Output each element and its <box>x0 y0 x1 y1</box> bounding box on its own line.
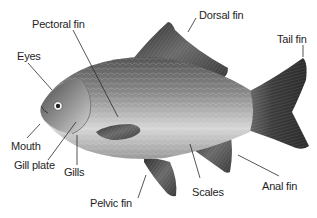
label-pelvic-fin: Pelvic fin <box>90 197 132 209</box>
pelvic-fin-shape <box>144 158 176 196</box>
eye-shape <box>54 102 62 110</box>
label-mouth: Mouth <box>11 140 41 152</box>
tail-fin-shape <box>248 58 309 149</box>
leader-anal-fin <box>238 155 279 176</box>
leader-mouth <box>27 124 40 138</box>
label-pectoral-fin: Pectoral fin <box>32 18 85 30</box>
label-scales: Scales <box>192 186 224 198</box>
label-dorsal-fin: Dorsal fin <box>199 9 243 21</box>
fish-head <box>40 78 90 134</box>
label-gill-plate: Gill plate <box>14 159 55 171</box>
leader-pelvic-fin <box>138 175 146 198</box>
label-eyes: Eyes <box>17 50 41 62</box>
label-gills: Gills <box>64 166 84 178</box>
label-anal-fin: Anal fin <box>262 180 297 192</box>
label-tail-fin: Tail fin <box>277 33 307 45</box>
leader-eyes <box>28 63 52 90</box>
leader-dorsal-fin <box>188 18 196 32</box>
fish-anatomy-diagram: Pectoral fin Eyes Dorsal fin Tail fin Mo… <box>0 0 317 218</box>
